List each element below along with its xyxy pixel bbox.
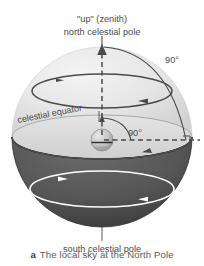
zenith-label: "up" (zenith) <box>77 14 127 24</box>
celestial-sphere-diagram: "up" (zenith) north celestial pole 90° 9… <box>0 0 204 266</box>
north-celestial-pole-label: north celestial pole <box>64 27 141 37</box>
celestial-sphere-figure: "up" (zenith) north celestial pole 90° 9… <box>0 0 204 266</box>
figure-caption: a The local sky at the North Pole <box>0 249 204 266</box>
outer-angle-label: 90° <box>165 55 179 65</box>
caption-text: The local sky at the North Pole <box>40 249 174 260</box>
caption-letter: a <box>30 249 35 260</box>
inner-angle-label: 90° <box>128 128 142 138</box>
